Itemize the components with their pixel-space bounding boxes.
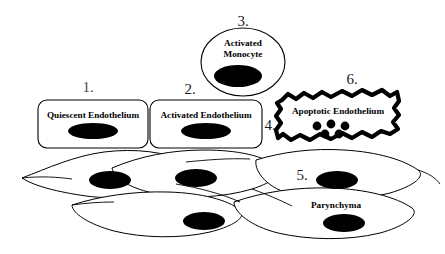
number-label-3: 3. [237, 13, 248, 29]
parenchyma-cell [234, 188, 414, 239]
parenchyma-nucleus [89, 171, 131, 189]
parenchyma-junction-line [418, 170, 440, 184]
activated-monocyte-label-line1: Activated [224, 38, 262, 48]
activated-endothelium-nucleus [181, 123, 231, 139]
parenchyma-nucleus [175, 169, 217, 187]
number-label-2: 2. [184, 81, 195, 97]
quiescent-endothelium-nucleus [68, 123, 118, 139]
quiescent-endothelium-cell[interactable]: Quiescent Endothelium [38, 100, 148, 148]
activated-monocyte-label-line2: Monocyte [224, 49, 263, 59]
number-label-6: 6. [346, 71, 357, 87]
parenchyma-layer [22, 149, 440, 238]
number-label-1: 1. [82, 79, 93, 95]
endothelium-diagram: Quiescent Endothelium Activated Endothel… [0, 0, 445, 254]
apoptotic-body [321, 130, 330, 139]
activated-monocyte-cell[interactable]: Activated Monocyte [201, 28, 285, 96]
apoptotic-endothelium-cell[interactable]: Apoptotic Endothelium [276, 90, 399, 140]
apoptotic-body [327, 120, 336, 129]
diagram-canvas: Quiescent Endothelium Activated Endothel… [0, 0, 445, 254]
parenchyma-label: Parynchyma [311, 200, 361, 210]
activated-endothelium-cell[interactable]: Activated Endothelium [150, 100, 262, 148]
apoptotic-endothelium-label: Apoptotic Endothelium [292, 106, 384, 116]
activated-endothelium-label: Activated Endothelium [160, 110, 251, 120]
parenchyma-nucleus [323, 214, 365, 232]
apoptotic-body [335, 130, 344, 139]
number-label-5: 5. [296, 167, 307, 183]
activated-monocyte-nucleus [214, 65, 262, 87]
quiescent-endothelium-label: Quiescent Endothelium [47, 110, 139, 120]
number-label-4: 4. [264, 117, 275, 133]
apoptotic-body [313, 122, 322, 131]
parenchyma-nucleus [183, 212, 225, 230]
parenchyma-nucleus [316, 171, 358, 189]
apoptotic-body [341, 122, 350, 131]
